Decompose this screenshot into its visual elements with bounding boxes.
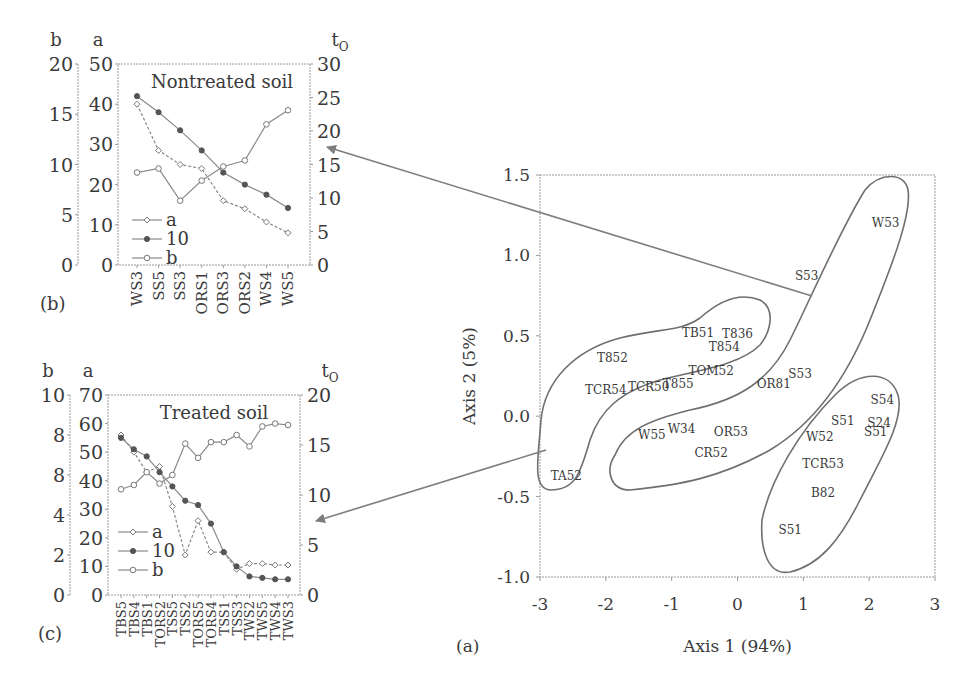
open-diamond-marker-icon <box>182 552 188 558</box>
category-label: SS5 <box>150 271 168 301</box>
b-axis-tick: 10 <box>41 384 65 406</box>
point-label: W55 <box>638 428 666 442</box>
open-circle-marker-icon <box>199 178 205 184</box>
panel-label: (c) <box>38 623 62 644</box>
a-axis-tick: 50 <box>79 441 103 463</box>
x-axis-tick: 1 <box>798 594 809 614</box>
filled-marker-icon <box>118 435 123 440</box>
plot-frame <box>118 64 310 265</box>
a-axis-tick: 30 <box>79 498 103 520</box>
filled-marker-icon <box>264 192 269 197</box>
point-label: S51 <box>831 414 855 428</box>
b-axis-tick: 8 <box>53 464 65 486</box>
to-axis-title: tO <box>331 29 348 54</box>
point-label: S54 <box>871 393 895 407</box>
open-diamond-marker-icon <box>220 198 226 204</box>
legend-label: a <box>166 209 177 230</box>
open-diamond-marker-icon <box>195 518 201 524</box>
filled-marker-icon <box>156 110 161 115</box>
figure-canvas: batO0102030405005101520051015202530WS3SS… <box>0 0 974 688</box>
a-axis-title: a <box>83 360 94 381</box>
y-axis-tick: 0.0 <box>503 406 530 426</box>
point-label: CR52 <box>694 446 728 460</box>
open-circle-marker-icon <box>182 441 188 447</box>
open-circle-marker-icon <box>247 444 253 450</box>
a-axis-tick: 60 <box>79 413 103 435</box>
y-axis-tick: 1.5 <box>503 165 530 185</box>
open-diamond-marker-icon <box>157 463 163 469</box>
open-diamond-marker-icon <box>156 147 162 153</box>
legend-label: 10 <box>152 540 175 561</box>
b-axis-tick: 0 <box>53 584 65 606</box>
b-axis-tick: 0 <box>61 254 73 276</box>
a-axis-tick: 10 <box>89 214 113 236</box>
a-axis-tick: 10 <box>79 555 103 577</box>
to-axis-tick: 10 <box>307 484 331 506</box>
to-axis-tick: 15 <box>317 154 341 176</box>
a-axis-tick: 30 <box>89 133 113 155</box>
open-diamond-marker-icon <box>144 217 150 223</box>
point-label: OR81 <box>757 377 791 391</box>
point-label: TOM52 <box>688 364 733 378</box>
a-axis-tick: 20 <box>89 174 113 196</box>
open-diamond-marker-icon <box>130 529 136 535</box>
category-label: ORS1 <box>193 271 211 314</box>
open-circle-marker-icon <box>234 432 240 438</box>
open-diamond-marker-icon <box>169 503 175 509</box>
filled-marker-icon <box>178 128 183 133</box>
filled-marker-icon <box>273 577 278 582</box>
open-circle-marker-icon <box>134 170 140 176</box>
a-axis-tick: 0 <box>91 584 103 606</box>
to-axis-tick: 20 <box>317 120 341 142</box>
filled-marker-icon <box>242 182 247 187</box>
to-axis-tick: 0 <box>317 254 329 276</box>
b-axis-tick: 8 <box>53 424 65 446</box>
open-diamond-marker-icon <box>177 162 183 168</box>
arrow-to-panel-b <box>327 147 812 296</box>
point-label: TCR53 <box>802 457 844 471</box>
point-label: OR53 <box>714 425 748 439</box>
to-axis-tick: 30 <box>317 53 341 75</box>
point-label: W34 <box>668 422 696 436</box>
category-label: TWS3 <box>281 601 296 640</box>
a-axis-tick: 50 <box>89 53 113 75</box>
point-label: T854 <box>709 340 740 354</box>
open-circle-marker-icon <box>208 439 214 445</box>
open-circle-marker-icon <box>285 107 291 113</box>
filled-marker-icon <box>247 574 252 579</box>
open-diamond-marker-icon <box>285 230 291 236</box>
line-chart-c: batO010203040506070024881005101520TBS5TB… <box>38 360 339 647</box>
to-axis-tick: 5 <box>317 221 329 243</box>
to-axis-title: tO <box>321 360 338 385</box>
open-diamond-marker-icon <box>208 549 214 555</box>
filled-marker-icon <box>170 484 175 489</box>
filled-marker-icon <box>144 454 149 459</box>
filled-marker-icon <box>199 148 204 153</box>
point-label: T852 <box>597 351 628 365</box>
x-axis-tick: -1 <box>663 594 680 614</box>
x-axis-tick: 3 <box>930 594 941 614</box>
y-axis-tick: -0.5 <box>497 487 530 507</box>
a-axis-tick: 70 <box>79 384 103 406</box>
a-axis-title: a <box>93 29 104 50</box>
to-axis-tick: 5 <box>307 534 319 556</box>
a-axis-tick: 20 <box>79 527 103 549</box>
a-axis-tick: 40 <box>89 93 113 115</box>
x-axis-tick: 0 <box>732 594 743 614</box>
open-circle-marker-icon <box>156 166 162 172</box>
b-axis-tick: 15 <box>49 103 73 125</box>
line-chart-b: batO0102030405005101520051015202530WS3SS… <box>40 29 349 314</box>
point-label: TCR54 <box>585 383 627 397</box>
panel-label: (b) <box>40 293 66 314</box>
filled-marker-icon <box>234 564 239 569</box>
open-circle-marker-icon <box>260 424 266 430</box>
filled-marker-icon <box>221 550 226 555</box>
x-axis-title: Axis 1 (94%) <box>682 636 792 656</box>
point-label: S53 <box>788 367 812 381</box>
filled-marker-icon <box>144 236 149 241</box>
open-diamond-marker-icon <box>242 206 248 212</box>
filled-marker-icon <box>208 521 213 526</box>
x-axis-tick: -3 <box>532 594 549 614</box>
filled-marker-icon <box>134 94 139 99</box>
filled-marker-icon <box>131 447 136 452</box>
